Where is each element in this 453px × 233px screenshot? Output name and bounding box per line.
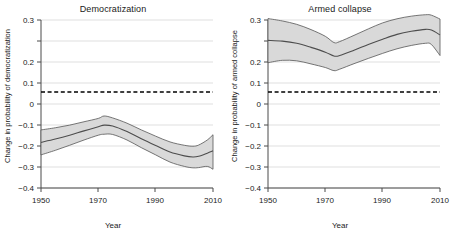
y-tick-label: 0: [30, 100, 35, 109]
plot-area-armed-collapse: 0.3 0.2 0.1 0 −0.1 −0.2 −0.3 −0.4 1950 1…: [227, 0, 453, 233]
y-axis-ticks: [37, 20, 41, 188]
y-tick-label: 0.2: [23, 58, 35, 67]
confidence-band: [41, 116, 213, 169]
y-tick-label: −0.1: [245, 121, 261, 130]
y-tick-label: 0.1: [250, 79, 262, 88]
x-tick-label: 2010: [431, 196, 449, 205]
x-axis-label: Year: [0, 221, 226, 230]
x-tick-label: 1950: [32, 196, 50, 205]
x-tick-label: 2010: [204, 196, 222, 205]
y-tick-label: −0.1: [18, 121, 34, 130]
y-axis-ticks: [264, 20, 268, 188]
x-tick-label: 1990: [373, 196, 391, 205]
y-tick-label: 0.3: [23, 16, 35, 25]
x-tick-label: 1970: [89, 196, 107, 205]
y-tick-label: −0.4: [245, 184, 261, 193]
panel-armed-collapse: Armed collapse Change in probability of …: [227, 0, 453, 233]
y-tick-label: −0.4: [18, 184, 34, 193]
y-tick-label: −0.2: [245, 142, 261, 151]
x-tick-label: 1970: [316, 196, 334, 205]
x-axis-ticks: [41, 188, 213, 192]
y-tick-label: −0.3: [245, 163, 261, 172]
x-axis-label: Year: [227, 221, 453, 230]
y-tick-label: 0: [257, 100, 262, 109]
y-tick-label: −0.2: [18, 142, 34, 151]
y-tick-label: 0.1: [23, 79, 35, 88]
panel-democratization: Democratization Change in probability of…: [0, 0, 226, 233]
y-tick-label: 0.2: [250, 58, 262, 67]
plot-area-democratization: 0.3 0.2 0.1 0 −0.1 −0.2 −0.3 −0.4 1950 1…: [0, 0, 226, 233]
y-tick-label: −0.3: [18, 163, 34, 172]
x-tick-label: 1950: [259, 196, 277, 205]
figure-root: Democratization Change in probability of…: [0, 0, 453, 233]
x-tick-label: 1990: [146, 196, 164, 205]
x-axis-ticks: [268, 188, 440, 192]
y-tick-label: 0.3: [250, 16, 262, 25]
